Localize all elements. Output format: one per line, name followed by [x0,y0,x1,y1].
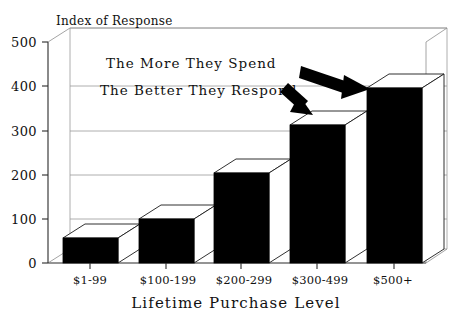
top-depth-left [48,28,70,42]
x-axis-title: Lifetime Purchase Level [131,294,340,312]
right-top-depth [426,28,447,42]
bar-front-face [139,219,194,263]
y-tick-label: 300 [11,124,37,139]
bar-side-face [345,111,367,263]
y-tick-label: 200 [11,168,37,183]
bar-group[interactable] [63,224,140,263]
bar-front-face [214,173,269,263]
x-tick-marks [90,263,394,269]
bar-group[interactable] [367,74,444,263]
chart-container: 500 400 300 200 100 0 Index of Response [0,0,467,318]
annotation-line-2: The Better They Respond [100,82,297,98]
x-tick-label: $200-299 [216,273,273,287]
y-tick-label: 100 [11,212,37,227]
y-tick-label: 500 [11,35,37,50]
y-tick-label: 400 [11,79,37,94]
y-tick-labels: 500 400 300 200 100 0 [11,35,37,271]
bar-front-face [367,88,422,263]
bar-side-face [269,159,291,263]
bar-front-face [63,238,118,263]
bar-group[interactable] [214,159,291,263]
x-tick-label: $100-199 [140,273,197,287]
x-tick-label: $500+ [373,273,413,287]
annotation-line-1: The More They Spend [106,55,277,71]
bar-group[interactable] [139,205,216,263]
bar-side-face [422,74,444,263]
y-tick-marks [42,42,48,263]
bar-front-face [290,125,345,263]
x-tick-labels: $1-99 $100-199 $200-299 $300-499 $500+ [73,273,413,287]
long-arrow-head [341,75,370,99]
y-tick-label: 0 [28,256,37,271]
long-arrow-icon [299,66,370,99]
bar-group[interactable] [290,111,367,263]
x-tick-label: $300-499 [292,273,349,287]
x-tick-label: $1-99 [73,273,107,287]
y-axis-title: Index of Response [56,14,173,28]
bar-chart: 500 400 300 200 100 0 Index of Response [0,0,467,318]
